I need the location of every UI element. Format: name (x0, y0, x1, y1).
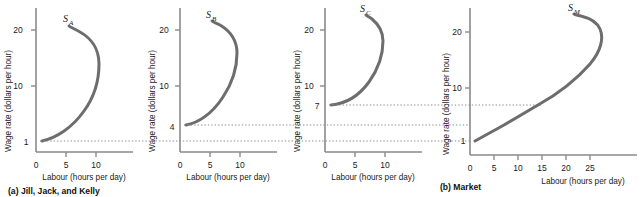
panel-a3: Wage rate (dollars per hour) 20 10 7 0 5… (293, 3, 422, 182)
panel-b-x-axis-title: Labour (hours per day) (541, 177, 625, 186)
panel-a2-yticklabel-20: 20 (159, 25, 169, 35)
panel-a1-x-axis-title: Labour (hours per day) (42, 173, 126, 182)
panel-a3-xticklabel-10: 10 (380, 160, 390, 170)
panel-a3-yticklabel-10: 10 (304, 81, 314, 91)
supply-curve-market (475, 14, 602, 141)
panel-a1-yticklabel-10: 10 (13, 81, 23, 91)
panel-a1-xticklabel-0: 0 (34, 160, 39, 170)
supply-curve-market-sublabel: M (573, 8, 581, 16)
panel-b-yticklabel-10: 10 (452, 83, 462, 93)
supply-curve-kelly-sublabel: C (366, 9, 371, 17)
panel-b-xticklabel-10: 10 (513, 163, 523, 173)
supply-curve-jack-sublabel: B (212, 15, 217, 23)
supply-curve-jack-label: S (206, 9, 211, 20)
panel-a2-yticklabel-4: 4 (170, 122, 175, 132)
panel-a3-y-axis-title: Wage rate (dollars per hour) (293, 50, 302, 152)
supply-curve-kelly-label: S (360, 3, 365, 14)
panel-b-yticklabel-1: 1 (461, 136, 466, 146)
panel-b-xticklabel-5: 5 (492, 163, 497, 173)
panel-a3-x-axis-title: Labour (hours per day) (331, 173, 415, 182)
panel-a2-xticklabel-0: 0 (178, 160, 183, 170)
labour-supply-figure: Wage rate (dollars per hour) 20 10 1 0 5… (0, 0, 642, 197)
panel-a1-yticklabel-1: 1 (24, 137, 29, 147)
supply-curve-kelly (331, 15, 383, 105)
panel-a3-xticklabel-0: 0 (323, 160, 328, 170)
panel-b-yticklabel-20: 20 (452, 27, 462, 37)
panel-b-xticklabel-0: 0 (468, 163, 473, 173)
connector-lines (40, 105, 541, 141)
panel-a3-yticklabel-7: 7 (315, 101, 320, 111)
supply-curve-jill-sublabel: A (68, 19, 74, 27)
panel-a2-xticklabel-10: 10 (235, 160, 245, 170)
panel-a2: Wage rate (dollars per hour) 20 10 4 0 5… (148, 8, 277, 182)
panel-a1-yticklabel-20: 20 (13, 25, 23, 35)
panel-a1-xticklabel-10: 10 (91, 160, 101, 170)
panel-a2-x-axis-title: Labour (hours per day) (186, 173, 270, 182)
panel-a1: Wage rate (dollars per hour) 20 10 1 0 5… (4, 8, 133, 182)
panel-b-xticklabel-15: 15 (537, 163, 547, 173)
panel-b-xticklabel-25: 25 (585, 163, 595, 173)
panel-a2-y-axis-title: Wage rate (dollars per hour) (148, 50, 157, 152)
panel-b-xticklabel-20: 20 (561, 163, 571, 173)
caption-market: (b) Market (440, 182, 481, 192)
supply-curve-jill-label: S (63, 13, 68, 24)
panel-a1-y-axis-title: Wage rate (dollars per hour) (4, 50, 13, 152)
panel-b-y-axis-title: Wage rate (dollars per hour) (442, 53, 451, 155)
panel-a3-yticklabel-20: 20 (304, 25, 314, 35)
caption-individuals: (a) Jill, Jack, and Kelly (8, 186, 100, 196)
panel-a2-xticklabel-5: 5 (208, 160, 213, 170)
panel-b-market: Wage rate (dollars per hour) 20 10 1 0 5… (442, 2, 637, 186)
panel-a2-yticklabel-10: 10 (159, 81, 169, 91)
supply-curve-jill (42, 26, 99, 141)
supply-curve-market-label: S (568, 2, 573, 13)
panel-a3-xticklabel-5: 5 (353, 160, 358, 170)
supply-curve-jack (186, 21, 237, 125)
panel-a1-xticklabel-5: 5 (64, 160, 69, 170)
